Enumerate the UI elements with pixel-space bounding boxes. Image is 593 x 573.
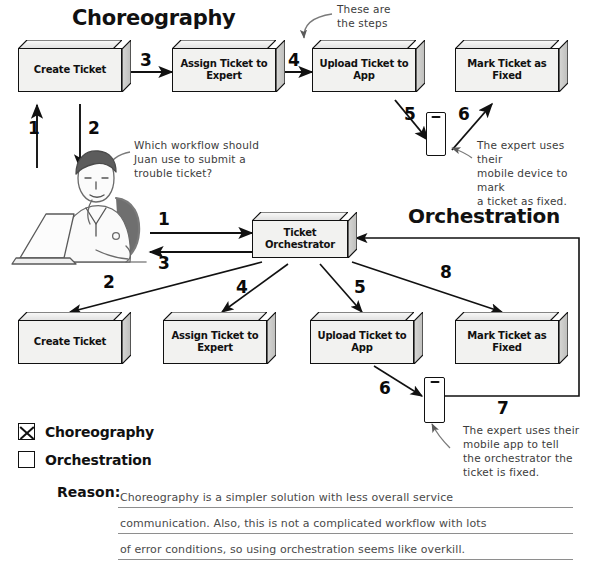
reason-line[interactable]: communication. Also, this is not a compl… bbox=[118, 508, 573, 534]
orchestration-mobile-device[interactable] bbox=[424, 377, 445, 423]
orchestration-box-create-ticket[interactable]: Create Ticket bbox=[18, 312, 122, 364]
box-front-face: Assign Ticket to Expert bbox=[172, 48, 276, 92]
reason-line[interactable]: of error conditions, so using orchestrat… bbox=[118, 534, 573, 560]
person-illustration bbox=[12, 151, 146, 264]
choreography-step-4: 4 bbox=[288, 50, 300, 70]
choreography-step-2: 2 bbox=[88, 118, 100, 138]
orchestration-step-7: 7 bbox=[497, 398, 509, 418]
answer-option-label: Orchestration bbox=[45, 452, 151, 468]
box-side-face bbox=[267, 312, 276, 364]
choreography-step-5: 5 bbox=[404, 104, 416, 124]
orchestration-step-5: 5 bbox=[354, 277, 366, 297]
orchestration-arrow-4 bbox=[222, 264, 288, 312]
annotation-orchestration-mobile: The expert uses their mobile app to tell… bbox=[463, 423, 579, 479]
reason-line[interactable]: Choreography is a simpler solution with … bbox=[118, 482, 573, 508]
choreography-step-1: 1 bbox=[28, 118, 40, 138]
orchestration-box-assign-ticket-to-expert[interactable]: Assign Ticket to Expert bbox=[163, 312, 267, 364]
orchestration-step-2: 2 bbox=[103, 272, 115, 292]
orchestration-step-3: 3 bbox=[158, 253, 170, 273]
box-label: Create Ticket bbox=[31, 336, 109, 348]
choreography-box-assign-ticket-to-expert[interactable]: Assign Ticket to Expert bbox=[172, 40, 276, 92]
checkbox-choreography[interactable] bbox=[18, 423, 35, 440]
checkbox-orchestration[interactable] bbox=[18, 451, 35, 468]
orchestration-step-1: 1 bbox=[158, 209, 170, 229]
choreography-box-mark-ticket-as-fixed[interactable]: Mark Ticket as Fixed bbox=[455, 40, 559, 92]
box-front-face: Mark Ticket as Fixed bbox=[455, 320, 559, 364]
orchestration-step-8: 8 bbox=[440, 262, 452, 282]
box-side-face bbox=[559, 312, 568, 364]
box-label: Assign Ticket to Expert bbox=[173, 58, 275, 82]
box-side-face bbox=[348, 212, 357, 258]
choreography-box-create-ticket[interactable]: Create Ticket bbox=[18, 40, 122, 92]
box-label: Create Ticket bbox=[31, 64, 109, 76]
box-front-face: Create Ticket bbox=[18, 48, 122, 92]
annotation-these-are-the-steps: These are the steps bbox=[337, 2, 391, 30]
annotation-choreography-mobile: The expert uses their mobile device to m… bbox=[477, 138, 593, 208]
choreography-mobile-device[interactable] bbox=[426, 112, 446, 156]
box-side-face bbox=[559, 40, 568, 92]
reason-answer-field[interactable]: Choreography is a simpler solution with … bbox=[118, 482, 573, 560]
box-label: Mark Ticket as Fixed bbox=[456, 330, 558, 354]
orchestration-step-4: 4 bbox=[236, 277, 248, 297]
box-side-face bbox=[276, 40, 285, 92]
page-top-cutoff bbox=[40, 0, 560, 4]
orchestration-arrow-8 bbox=[352, 262, 502, 312]
choreography-step-3: 3 bbox=[140, 50, 152, 70]
phone-speaker-icon bbox=[430, 381, 439, 383]
choreography-box-upload-ticket-to-app[interactable]: Upload Ticket to App bbox=[312, 40, 416, 92]
box-label: Upload Ticket to App bbox=[311, 330, 413, 354]
orchestration-box-ticket-orchestrator[interactable]: Ticket Orchestrator bbox=[252, 212, 348, 258]
reason-label: Reason: bbox=[57, 484, 120, 500]
box-front-face: Mark Ticket as Fixed bbox=[455, 48, 559, 92]
box-side-face bbox=[122, 312, 131, 364]
choreography-mobile-note-pointer bbox=[452, 148, 472, 158]
box-front-face: Upload Ticket to App bbox=[312, 48, 416, 92]
box-side-face bbox=[122, 40, 131, 92]
page-title-choreography: Choreography bbox=[72, 6, 235, 30]
box-label: Ticket Orchestrator bbox=[253, 227, 347, 251]
box-front-face: Create Ticket bbox=[18, 320, 122, 364]
box-front-face: Assign Ticket to Expert bbox=[163, 320, 267, 364]
answer-option-label: Choreography bbox=[45, 424, 154, 440]
box-label: Mark Ticket as Fixed bbox=[456, 58, 558, 82]
annotation-question: Which workflow should Juan use to submit… bbox=[134, 138, 259, 180]
steps-note-pointer bbox=[304, 14, 332, 38]
orchestration-step-6: 6 bbox=[379, 378, 391, 398]
phone-speaker-icon bbox=[432, 116, 441, 118]
box-side-face bbox=[416, 40, 425, 92]
orchestration-box-mark-ticket-as-fixed[interactable]: Mark Ticket as Fixed bbox=[455, 312, 559, 364]
worksheet-page: Choreography Orchestration Create Ticket… bbox=[0, 0, 593, 573]
box-label: Assign Ticket to Expert bbox=[164, 330, 266, 354]
box-side-face bbox=[414, 312, 423, 364]
choreography-step-6: 6 bbox=[458, 104, 470, 124]
answer-option-choreography[interactable]: Choreography bbox=[18, 423, 154, 440]
box-label: Upload Ticket to App bbox=[313, 58, 415, 82]
answer-option-orchestration[interactable]: Orchestration bbox=[18, 451, 151, 468]
orchestration-mobile-note-pointer bbox=[432, 424, 450, 448]
orchestration-box-upload-ticket-to-app[interactable]: Upload Ticket to App bbox=[310, 312, 414, 364]
box-front-face: Upload Ticket to App bbox=[310, 320, 414, 364]
box-front-face: Ticket Orchestrator bbox=[252, 220, 348, 258]
